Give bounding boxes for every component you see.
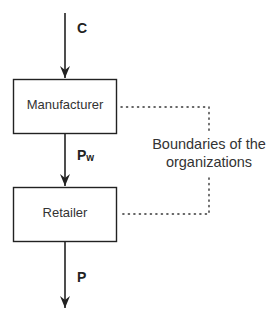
flow-wholesale-arrow xyxy=(60,134,70,186)
flow-output-arrow xyxy=(60,242,70,308)
supply-chain-diagram: C Manufacturer Pw Retailer P Boundaries … xyxy=(0,0,276,320)
flow-input-arrow xyxy=(60,13,70,78)
manufacturer-node: Manufacturer xyxy=(14,80,117,134)
retailer-node: Retailer xyxy=(14,188,117,242)
flow-wholesale-label: Pw xyxy=(77,147,94,163)
boundary-line-top xyxy=(121,107,209,132)
flow-input-label: C xyxy=(77,20,87,36)
flow-output-label: P xyxy=(77,269,86,285)
annotation-line-2: organizations xyxy=(166,154,252,170)
manufacturer-label: Manufacturer xyxy=(27,97,104,112)
retailer-label: Retailer xyxy=(43,205,88,220)
boundary-line-bottom xyxy=(121,178,209,214)
annotation-line-1: Boundaries of the xyxy=(152,136,266,152)
